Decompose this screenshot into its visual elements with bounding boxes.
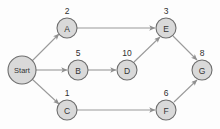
node-f[interactable]: F	[156, 100, 176, 120]
weight-label-f: 6	[164, 88, 169, 98]
node-label-b: B	[75, 66, 81, 76]
graph-diagram: StartABCDEFG 25110368	[0, 0, 220, 129]
node-c[interactable]: C	[57, 100, 77, 120]
node-g[interactable]: G	[192, 60, 212, 80]
weight-label-b: 5	[76, 48, 81, 58]
edge-e-g	[173, 36, 197, 60]
weights-layer: 25110368	[65, 6, 205, 98]
node-a[interactable]: A	[57, 18, 77, 38]
node-label-start: Start	[14, 66, 31, 75]
node-d[interactable]: D	[117, 60, 137, 80]
edge-start-c	[32, 79, 59, 104]
node-label-g: G	[199, 66, 206, 76]
edge-start-a	[32, 34, 59, 61]
node-b[interactable]: B	[68, 60, 88, 80]
node-e[interactable]: E	[156, 18, 176, 38]
weight-label-a: 2	[65, 6, 70, 16]
weight-label-d: 10	[122, 48, 132, 58]
node-label-f: F	[163, 106, 168, 116]
weight-label-g: 8	[200, 48, 205, 58]
node-label-c: C	[64, 106, 70, 116]
weight-label-c: 1	[65, 88, 70, 98]
edge-f-g	[174, 80, 197, 102]
edges-layer	[32, 28, 197, 110]
node-label-d: D	[124, 66, 130, 76]
weight-label-e: 3	[164, 6, 169, 16]
edge-d-e	[134, 37, 160, 62]
node-label-e: E	[163, 24, 169, 34]
nodes-layer: StartABCDEFG	[8, 18, 212, 120]
node-label-a: A	[64, 24, 70, 34]
node-start[interactable]: Start	[8, 56, 36, 84]
graph-svg: StartABCDEFG 25110368	[0, 0, 220, 129]
